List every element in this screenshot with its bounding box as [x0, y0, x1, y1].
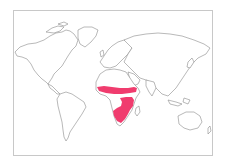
- world-map: [0, 0, 227, 165]
- australia: [178, 112, 202, 130]
- new-zealand: [208, 126, 211, 134]
- greenland: [78, 27, 98, 47]
- uk: [100, 50, 104, 57]
- north-america: [15, 30, 78, 84]
- central-america: [48, 84, 60, 94]
- southeast-asia-islands: [168, 98, 190, 106]
- south-america: [57, 92, 86, 141]
- madagascar: [135, 106, 140, 116]
